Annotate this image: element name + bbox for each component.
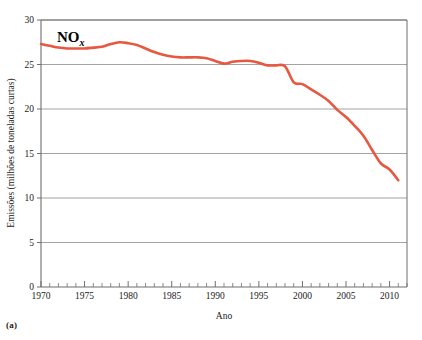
panel-caption: (a) [6, 320, 17, 330]
x-tick-label-1990: 1990 [206, 291, 225, 301]
y-tick-label-5: 5 [29, 238, 34, 248]
series-annotation-main: NO [57, 29, 80, 45]
x-tick-label-2005: 2005 [337, 291, 356, 301]
nox-emissions-line-chart: 051015202530 197019751980198519901995200… [0, 0, 422, 340]
y-tick-label-15: 15 [25, 149, 35, 159]
series-annotation-subscript: x [79, 37, 85, 48]
y-tick-label-20: 20 [25, 104, 35, 114]
x-axis-title: Ano [216, 311, 233, 321]
y-axis-title: Emissões (milhões de toneladas curtas) [6, 78, 17, 227]
x-tick-label-2000: 2000 [293, 291, 312, 301]
y-tick-label-10: 10 [25, 193, 35, 203]
y-axis-ticks [37, 20, 41, 287]
y-axis-tick-labels: 051015202530 [25, 15, 35, 292]
x-tick-label-1970: 1970 [32, 291, 51, 301]
y-tick-label-25: 25 [25, 60, 35, 70]
x-tick-label-2010: 2010 [380, 291, 399, 301]
y-tick-label-30: 30 [25, 15, 35, 25]
x-tick-label-1980: 1980 [119, 291, 138, 301]
x-tick-label-1995: 1995 [249, 291, 268, 301]
x-tick-label-1975: 1975 [75, 291, 94, 301]
x-axis-tick-labels: 197019751980198519901995200020052010 [32, 291, 400, 301]
x-tick-label-1985: 1985 [162, 291, 181, 301]
figure-panel: 051015202530 197019751980198519901995200… [0, 0, 422, 340]
